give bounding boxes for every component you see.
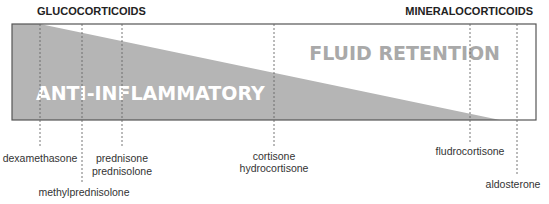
drug-label-cortisone: cortisone [253, 150, 296, 162]
label-anti-inflammatory: ANTI-INFLAMMATORY [36, 82, 265, 104]
drug-label-fludrocortisone: fludrocortisone [436, 145, 505, 157]
drug-label-prednisolone: prednisolone [92, 165, 152, 177]
header-mineralocorticoids: MINERALOCORTICOIDS [405, 5, 533, 17]
drug-label-prednisone: prednisone [96, 152, 148, 164]
drug-label-hydrocortisone: hydrocortisone [240, 162, 309, 174]
drug-label-aldosterone: aldosterone [486, 178, 541, 190]
header-glucocorticoids: GLUCOCORTICOIDS [37, 5, 146, 17]
drug-label-methylprednisolone: methylprednisolone [38, 186, 129, 198]
anti-inflammatory-wedge [12, 24, 500, 120]
corticosteroid-spectrum-diagram: GLUCOCORTICOIDS MINERALOCORTICOIDS ANTI-… [0, 0, 549, 204]
drug-label-dexamethasone: dexamethasone [3, 152, 78, 164]
label-fluid-retention: FLUID RETENTION [309, 42, 500, 64]
